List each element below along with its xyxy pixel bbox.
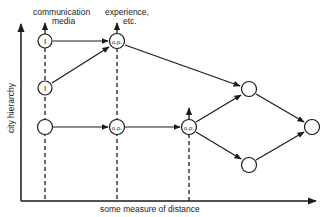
axes: [21, 24, 316, 201]
node-label-n5: o.p.: [112, 125, 122, 131]
edge-n4-n7: [125, 45, 240, 86]
node-label-n4: o.p.: [112, 39, 122, 45]
node-label-n6: o.p.: [184, 125, 194, 131]
edge-n2-n4: [52, 47, 109, 83]
edges: [52, 41, 304, 160]
column-labels: communication media experience, etc.: [33, 7, 149, 26]
node-labels: I I o.p. o.p. o.p.: [44, 37, 194, 131]
edge-n7-n9: [256, 94, 304, 122]
node-n3: [38, 120, 53, 135]
label-media: media: [52, 16, 75, 26]
edge-n8-n9: [256, 132, 304, 160]
node-label-n2: I: [44, 84, 46, 93]
label-etc: etc.: [123, 16, 137, 26]
node-n8: [242, 158, 257, 173]
city-hierarchy-diagram: I I o.p. o.p. o.p. communication media e…: [0, 0, 326, 217]
y-axis-label: city hierarchy: [6, 82, 16, 133]
nodes: [38, 34, 320, 173]
node-label-n1: I: [44, 37, 46, 46]
node-n9: [305, 120, 320, 135]
edge-n6-n7: [196, 95, 241, 122]
x-axis-label: some measure of distance: [100, 204, 200, 214]
edge-n6-n8: [196, 132, 241, 159]
node-n7: [242, 82, 257, 97]
